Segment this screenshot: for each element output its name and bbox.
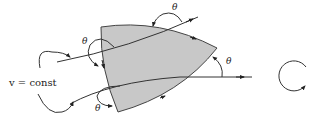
theta-label-upper-left: θ: [82, 37, 87, 46]
theta-label-top: θ: [172, 3, 177, 12]
theta-label-right: θ: [226, 57, 231, 66]
upper-curve-arrow: [186, 19, 193, 22]
angle-arc-right: [213, 57, 222, 77]
angle-arc-top: [153, 13, 182, 26]
shaded-region: [101, 25, 217, 112]
pointer-arrow-upper: [39, 51, 70, 68]
rotation-circle-arrow-icon: [279, 61, 306, 91]
pointer-arrow-lower: [38, 94, 73, 113]
diagram-drawing: [0, 0, 312, 122]
diagram-canvas: v = const θ θ θ θ: [0, 0, 312, 122]
boundary-arrow-bottom: [160, 96, 165, 98]
theta-label-lower-left: θ: [95, 104, 100, 113]
v-const-label: v = const: [9, 78, 57, 88]
